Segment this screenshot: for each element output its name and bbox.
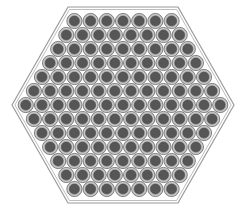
bundle-element: [180, 125, 195, 140]
bundle-element: [34, 97, 49, 112]
bundle-element: [75, 27, 90, 42]
bundle-element: [83, 125, 98, 140]
bundle-element: [180, 153, 195, 168]
bundle-element: [59, 139, 74, 154]
bundle-element: [59, 27, 74, 42]
bundle-element: [213, 97, 228, 112]
bundle-element: [188, 139, 203, 154]
bundle-element: [180, 41, 195, 56]
bundle-element: [67, 181, 82, 196]
bundle-element: [51, 69, 66, 84]
bundle-element: [148, 41, 163, 56]
bundle-element: [124, 27, 139, 42]
bundle-element: [115, 181, 130, 196]
bundle-element: [107, 167, 122, 182]
bundle-element: [67, 41, 82, 56]
bundle-element: [148, 153, 163, 168]
bundle-element: [59, 167, 74, 182]
bundle-element: [75, 111, 90, 126]
bundle-element: [83, 97, 98, 112]
bundle-element: [26, 83, 41, 98]
bundle-element: [115, 41, 130, 56]
bundle-element: [83, 69, 98, 84]
bundle-element: [59, 111, 74, 126]
bundle-element: [91, 55, 106, 70]
bundle-element: [140, 83, 155, 98]
bundle-element: [205, 111, 220, 126]
bundle-element: [115, 153, 130, 168]
bundle-element: [67, 69, 82, 84]
bundle-element: [124, 167, 139, 182]
bundle-element: [99, 181, 114, 196]
bundle-element: [148, 69, 163, 84]
bundle-element: [51, 153, 66, 168]
bundle-element: [156, 27, 171, 42]
bundle-element: [107, 83, 122, 98]
bundle-element: [164, 41, 179, 56]
hexagonal-bundle-diagram: [0, 0, 246, 210]
bundle-element: [124, 111, 139, 126]
bundle-element: [188, 111, 203, 126]
bundle-element: [67, 153, 82, 168]
bundle-element: [75, 55, 90, 70]
bundle-element: [115, 125, 130, 140]
bundle-element: [196, 97, 211, 112]
bundle-element: [107, 55, 122, 70]
bundle-element: [91, 27, 106, 42]
bundle-element: [196, 69, 211, 84]
bundle-element: [156, 83, 171, 98]
bundle-element: [132, 153, 147, 168]
bundle-element: [75, 83, 90, 98]
bundle-element: [172, 27, 187, 42]
bundle-element: [132, 125, 147, 140]
bundle-element: [107, 139, 122, 154]
bundle-element: [132, 97, 147, 112]
diagram-canvas: [0, 0, 246, 210]
bundle-element: [172, 167, 187, 182]
bundle-element: [164, 69, 179, 84]
bundle-element: [26, 111, 41, 126]
bundle-element: [172, 55, 187, 70]
bundle-element: [172, 139, 187, 154]
bundle-element: [91, 167, 106, 182]
bundle-element: [99, 153, 114, 168]
bundle-element: [132, 181, 147, 196]
bundle-element: [164, 97, 179, 112]
bundle-element: [140, 139, 155, 154]
bundle-element: [75, 139, 90, 154]
bundle-element: [83, 153, 98, 168]
bundle-element: [188, 83, 203, 98]
bundle-element: [164, 153, 179, 168]
bundle-element: [172, 111, 187, 126]
bundle-element: [148, 97, 163, 112]
bundle-element: [164, 125, 179, 140]
bundle-element: [99, 41, 114, 56]
bundle-element: [156, 167, 171, 182]
bundle-element: [67, 97, 82, 112]
bundle-element: [172, 83, 187, 98]
bundle-element: [99, 13, 114, 28]
bundle-element: [83, 181, 98, 196]
bundle-element: [91, 139, 106, 154]
bundle-element: [140, 55, 155, 70]
bundle-element: [99, 69, 114, 84]
bundle-element: [91, 83, 106, 98]
bundle-element: [156, 111, 171, 126]
bundle-element: [132, 13, 147, 28]
bundle-element: [148, 125, 163, 140]
bundle-element: [180, 69, 195, 84]
bundle-element: [196, 125, 211, 140]
bundle-element: [124, 55, 139, 70]
bundle-element: [83, 13, 98, 28]
bundle-element: [115, 13, 130, 28]
bundle-element: [99, 97, 114, 112]
bundle-element: [164, 13, 179, 28]
bundle-element: [18, 97, 33, 112]
bundle-element: [43, 139, 58, 154]
bundle-element: [140, 27, 155, 42]
bundle-element: [34, 125, 49, 140]
bundle-element: [156, 139, 171, 154]
bundle-element: [140, 111, 155, 126]
bundle-element: [83, 41, 98, 56]
bundle-element: [43, 83, 58, 98]
